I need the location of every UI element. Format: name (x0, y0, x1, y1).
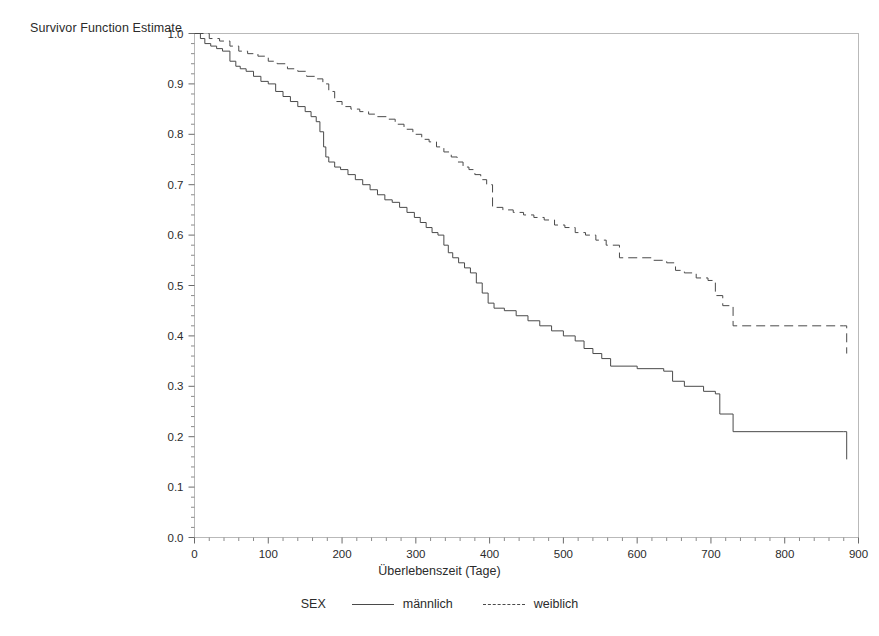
survival-chart-figure: Survivor Function Estimate 0100200300400… (0, 0, 879, 636)
x-tick-label: 0 (191, 548, 197, 560)
y-tick-label: 0.8 (168, 128, 184, 140)
y-tick-label: 0.6 (168, 229, 184, 241)
chart-title: Survivor Function Estimate (30, 21, 182, 35)
x-axis-title: Überlebenszeit (Tage) (0, 564, 879, 578)
y-tick-label: 0.5 (168, 280, 184, 292)
x-axis-tick-labels: 0100200300400500600700800900 (191, 548, 868, 560)
legend-label-maennlich: männlich (403, 597, 453, 611)
y-tick-label: 0.7 (168, 179, 184, 191)
series-line-weiblich (195, 34, 847, 354)
x-tick-label: 500 (554, 548, 573, 560)
x-tick-label: 700 (701, 548, 720, 560)
chart-legend: SEX männlich weiblich (0, 597, 879, 611)
y-axis-tick-labels: 0.00.10.20.30.40.50.60.70.80.91.0 (168, 28, 185, 544)
y-tick-label: 0.3 (168, 380, 184, 392)
x-tick-label: 800 (775, 548, 794, 560)
x-tick-label: 100 (259, 548, 278, 560)
x-tick-label: 200 (332, 548, 351, 560)
y-tick-label: 0.4 (168, 330, 185, 342)
series-line-mnnlich (195, 34, 847, 460)
x-tick-label: 600 (628, 548, 647, 560)
x-axis-ticks (195, 538, 859, 544)
series-layer (195, 34, 847, 460)
y-tick-label: 0.9 (168, 78, 184, 90)
y-axis-ticks (189, 34, 195, 538)
y-tick-label: 0.0 (168, 532, 184, 544)
plot-frame (195, 34, 859, 538)
survival-plot-canvas: 0100200300400500600700800900 0.00.10.20.… (0, 0, 879, 636)
y-tick-label: 0.1 (168, 481, 184, 493)
x-tick-label: 400 (480, 548, 499, 560)
y-tick-label: 0.2 (168, 431, 184, 443)
legend-title: SEX (301, 597, 326, 611)
legend-swatch-solid-icon (352, 604, 394, 605)
legend-label-weiblich: weiblich (534, 597, 578, 611)
x-tick-label: 300 (406, 548, 425, 560)
x-tick-label: 900 (849, 548, 868, 560)
legend-entry-weiblich: weiblich (483, 597, 578, 611)
legend-swatch-dashed-icon (483, 604, 525, 605)
legend-entry-maennlich: männlich (352, 597, 453, 611)
